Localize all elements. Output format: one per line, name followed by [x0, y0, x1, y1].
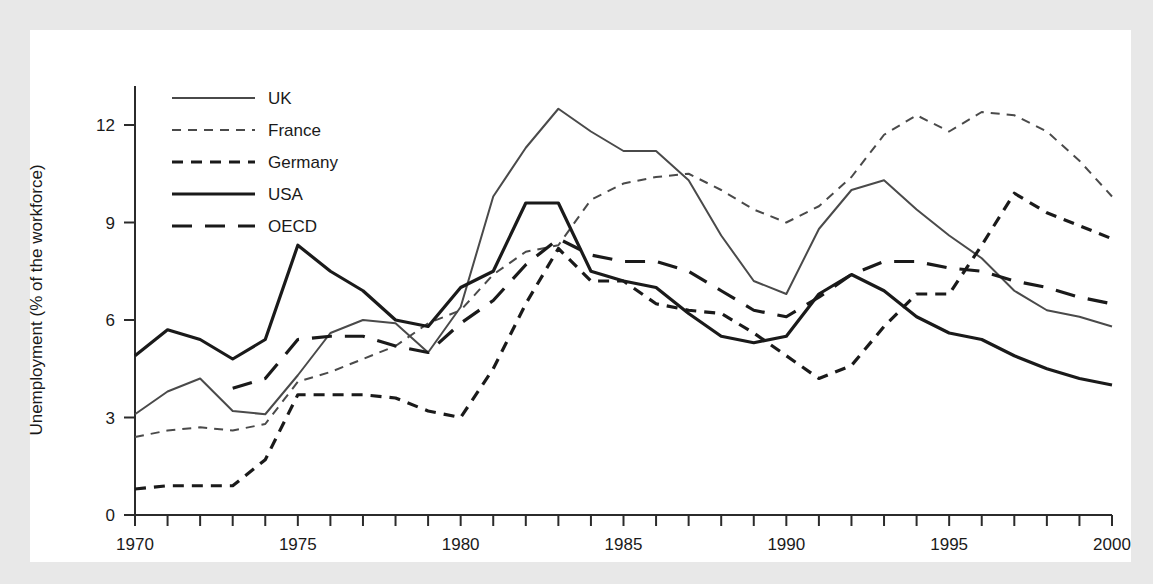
series-line-oecd: [233, 239, 1112, 389]
y-tick-label: 9: [106, 214, 115, 233]
legend-label-france: France: [268, 121, 321, 140]
x-tick-label: 1980: [442, 535, 480, 554]
x-axis-ticks: [135, 515, 1112, 526]
x-tick-label: 1970: [116, 535, 154, 554]
line-chart: 036912 1970197519801985199019952000 Unem…: [0, 0, 1153, 584]
y-axis-title: Unemployment (% of the workforce): [27, 164, 46, 435]
x-tick-label: 1975: [279, 535, 317, 554]
x-tick-label: 2000: [1093, 535, 1131, 554]
legend-label-uk: UK: [268, 89, 292, 108]
x-tick-label: 1995: [930, 535, 968, 554]
series-line-germany: [135, 193, 1112, 489]
legend-label-usa: USA: [268, 185, 304, 204]
y-tick-label: 12: [96, 116, 115, 135]
y-axis-tick-labels: 036912: [96, 116, 115, 525]
y-tick-label: 3: [106, 409, 115, 428]
chart-legend: UKFranceGermanyUSAOECD: [172, 89, 338, 236]
y-axis-ticks: [124, 125, 135, 515]
legend-label-germany: Germany: [268, 153, 338, 172]
x-tick-label: 1990: [767, 535, 805, 554]
x-axis-tick-labels: 1970197519801985199019952000: [116, 535, 1131, 554]
legend-label-oecd: OECD: [268, 217, 317, 236]
figure-frame: 036912 1970197519801985199019952000 Unem…: [0, 0, 1153, 584]
x-tick-label: 1985: [605, 535, 643, 554]
y-tick-label: 6: [106, 311, 115, 330]
y-tick-label: 0: [106, 506, 115, 525]
